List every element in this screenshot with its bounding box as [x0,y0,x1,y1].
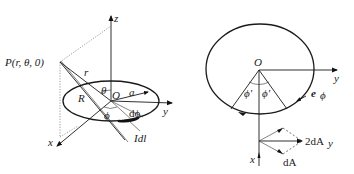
dA-label: dA [283,156,297,168]
p-to-z-guide [60,26,111,62]
idl-label: Idl [133,132,146,144]
theta-label: θ [101,84,107,96]
phi-prime-right-label: ϕ' [262,87,271,99]
origin-right-label: O [254,56,262,68]
r-label: r [84,66,89,78]
e-phi-label: e ϕ [311,83,326,101]
diagram-canvas: z y x P(r, θ, 0) r R [0,0,354,174]
R-label: R [77,92,85,104]
y-axis-right-label: y [333,72,339,84]
right-diagram: y x O ϕ' ϕ' e ϕ 2dA y dA [206,24,339,168]
idl-pointer [129,121,140,131]
point-p-label: P(r, θ, 0) [4,56,44,69]
parallelogram-upper-dash [283,128,302,141]
origin-label: O [112,89,120,101]
left-diagram: z y x P(r, θ, 0) r R [4,12,172,148]
parallelogram-lower-dash [283,141,302,154]
x-axis-right-label: x [249,153,255,165]
phi-prime-left-label: ϕ' [244,87,253,99]
radius-label: a [129,86,135,98]
dphi-label: dϕ [129,107,141,119]
x-axis-arrow [258,152,261,158]
vector-upper-arrow [277,128,283,133]
p-base-guide [60,126,78,137]
phi-label: ϕ [104,109,110,121]
vector-lower-arrow [277,149,283,154]
x-axis-label: x [47,136,53,148]
sum-vector-label: 2dA y [305,131,333,149]
y-axis-label: y [162,105,168,117]
e-phi-vector [297,96,306,101]
z-axis-label: z [113,12,119,24]
y-axis [111,101,172,103]
